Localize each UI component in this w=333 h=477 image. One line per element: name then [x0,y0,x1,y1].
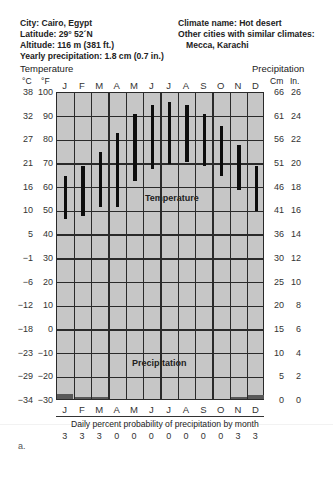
month-label: O [212,404,229,415]
temperature-inner-label: Temperature [145,193,199,203]
month-label: J [143,80,160,91]
cm-tick: 51 [270,158,284,168]
probability-value: 0 [177,431,194,441]
celsius-tick: −23 [18,348,33,358]
celsius-tick: −34 [18,395,33,405]
probability-value: 3 [56,431,73,441]
probability-title: Daily percent probability of precipitati… [71,419,259,429]
grid-hline [57,163,263,164]
month-label: N [229,404,246,415]
grid-hline [57,377,263,378]
month-label: A [177,404,194,415]
temperature-range-bar [237,145,240,190]
altitude-label: Altitude: 116 m (381 ft.) [20,40,114,51]
cm-tick: 0 [270,395,284,405]
precipitation-bar [57,394,73,399]
climate-chart-grid: Temperature Precipitation [56,92,264,400]
fahrenheit-tick: 0 [48,324,53,334]
fahrenheit-tick: −30 [38,395,53,405]
temperature-range-bar [64,176,67,219]
fahrenheit-tick: 20 [43,277,53,287]
celsius-tick: −1 [23,253,33,263]
probability-value: 3 [91,431,108,441]
cm-tick: 10 [270,348,284,358]
probability-value: 3 [73,431,90,441]
celsius-tick: −6 [23,277,33,287]
cm-tick: 66 [270,87,284,97]
fahrenheit-tick: 70 [43,158,53,168]
cm-tick: 30 [270,253,284,263]
inch-tick: 12 [287,253,301,263]
temperature-axis-title: Temperature [20,64,73,74]
inch-tick: 24 [287,111,301,121]
celsius-tick: 32 [23,111,33,121]
inch-tick: 16 [287,205,301,215]
grid-hline [57,306,263,307]
fahrenheit-tick: −10 [38,348,53,358]
temperature-range-bar [116,133,119,206]
probability-value: 3 [229,431,246,441]
grid-hline [57,329,263,330]
cm-tick: 5 [270,371,284,381]
temperature-range-bar [255,166,258,211]
fahrenheit-tick: 60 [43,182,53,192]
inch-tick: 6 [287,324,301,334]
cm-unit: Cm [270,76,283,86]
celsius-tick: −29 [18,371,33,381]
climate-name-label: Climate name: Hot desert [178,18,282,29]
grid-hline [57,116,263,117]
temperature-range-bar [220,126,223,176]
celsius-tick: 16 [23,182,33,192]
month-label: M [125,404,142,415]
inch-tick: 0 [287,395,301,405]
month-label: O [212,80,229,91]
inch-tick: 10 [287,277,301,287]
month-label: J [160,404,177,415]
temperature-range-bar [203,114,206,166]
month-label: J [160,80,177,91]
figure-label: a. [18,441,26,451]
inch-tick: 22 [287,134,301,144]
temperature-range-bar [168,102,171,164]
month-label: J [56,404,73,415]
cm-tick: 25 [270,277,284,287]
probability-value: 0 [195,431,212,441]
temperature-range-bar [99,152,102,206]
month-label: A [177,80,194,91]
fahrenheit-tick: 10 [43,300,53,310]
celsius-tick: 5 [28,229,33,239]
month-label: F [73,404,90,415]
month-label: D [247,80,264,91]
temperature-range-bar [151,105,154,169]
month-label: J [56,80,73,91]
month-label: N [229,80,246,91]
month-label: A [108,80,125,91]
inch-tick: 18 [287,182,301,192]
inch-unit: In. [290,76,299,86]
probability-value: 3 [247,431,264,441]
celsius-unit: °C [22,76,32,86]
month-label: M [91,404,108,415]
inch-tick: 4 [287,348,301,358]
fahrenheit-unit: °F [41,76,50,86]
fahrenheit-tick: 80 [43,134,53,144]
precipitation-bar [92,397,108,399]
precipitation-bar [231,397,247,399]
fahrenheit-tick: 50 [43,205,53,215]
grid-hline [57,234,263,235]
cm-tick: 46 [270,182,284,192]
cm-tick: 56 [270,134,284,144]
month-label: D [247,404,264,415]
yearly-precip-label: Yearly precipitation: 1.8 cm (0.7 in.) [20,51,164,62]
inch-tick: 20 [287,158,301,168]
month-label: F [73,80,90,91]
similar-cities: Mecca, Karachi [186,40,249,51]
month-label: M [125,80,142,91]
probability-value: 0 [125,431,142,441]
temperature-range-bar [133,114,136,180]
celsius-tick: −12 [18,300,33,310]
month-label: M [91,80,108,91]
celsius-tick: 27 [23,134,33,144]
cm-tick: 36 [270,229,284,239]
month-label: A [108,404,125,415]
